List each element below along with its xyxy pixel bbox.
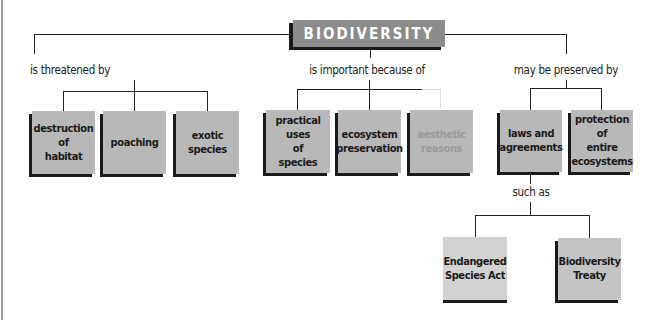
connector [134,80,135,91]
connector [34,34,35,54]
connector [530,175,531,184]
link-label-preserved: may be preserved by [514,63,618,77]
node-endangered-species-act: EndangeredSpecies Act [443,237,507,300]
connector [589,215,590,238]
connector [422,89,440,90]
connector [601,88,602,110]
node-laws-and-agreements: laws andagreements [500,110,562,172]
root-node-biodiversity: BIODIVERSITY [293,20,445,47]
connector [34,34,290,35]
connector [445,34,567,35]
connector [207,91,208,111]
connector [297,89,298,110]
link-label-threatened: is threatened by [30,63,110,77]
root-label: BIODIVERSITY [304,25,435,43]
node-destruction-of-habitat: destructionofhabitat [32,111,95,174]
node-poaching: poaching [103,111,166,174]
connector [566,80,567,88]
connector [134,91,135,111]
connector [63,91,208,92]
connector [370,50,371,58]
connector [475,215,476,237]
connector [475,215,590,216]
connector [566,34,567,54]
left-border [1,0,3,320]
connector [369,80,370,110]
node-biodiversity-treaty: BiodiversityTreaty [558,238,621,300]
node-exotic-species: exoticspecies [176,111,239,174]
connector [297,89,422,90]
connector [63,91,64,111]
link-label-such-as: such as [512,185,549,199]
connector [530,202,531,215]
node-protection-of-ecosystems: protection ofentireecosystems [571,110,633,172]
link-label-important: is important because of [309,63,425,77]
node-ecosystem-preservation: ecosystempreservation [338,110,401,173]
node-aesthetic-reasons: aestheticreasons [410,110,473,173]
connector [440,89,441,109]
node-practical-uses: practical usesof species [266,110,330,173]
connector [530,88,602,89]
connector [530,88,531,110]
